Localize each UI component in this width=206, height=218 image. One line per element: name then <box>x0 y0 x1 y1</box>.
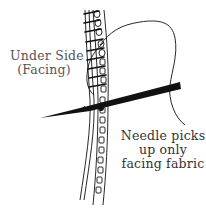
needle-note-line-3: facing fabric <box>118 157 206 171</box>
under-side-label: Under Side (Facing) <box>10 49 78 77</box>
sewing-illustration <box>0 0 206 218</box>
needle-note-line-1: Needle picks <box>118 129 206 143</box>
needle <box>40 82 181 118</box>
needle-note-line-2: up only <box>118 143 206 157</box>
under-side-line-2: (Facing) <box>10 63 78 77</box>
diagram-canvas: Under Side (Facing) Needle picks up only… <box>0 0 206 218</box>
under-side-line-1: Under Side <box>10 49 78 63</box>
needle-note-label: Needle picks up only facing fabric <box>118 129 206 171</box>
